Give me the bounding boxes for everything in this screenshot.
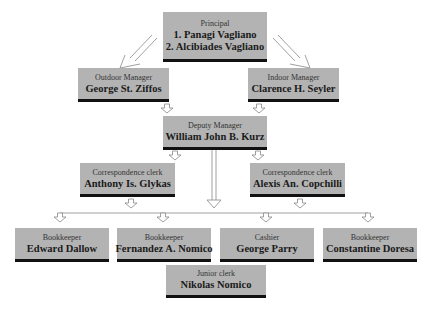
arrow-principal-to-indoor: [273, 35, 310, 68]
arrow-to-book2: [157, 213, 169, 222]
role-label: Bookkeeper: [351, 233, 390, 243]
role-label: Principal: [201, 19, 230, 29]
person-name: Edward Dallow: [27, 243, 97, 255]
node-deputy-manager: Deputy Manager William John B. Kurz: [163, 116, 267, 150]
node-correspondence-clerk-1: Correspondence clerk Anthony Is. Glykas: [80, 163, 175, 197]
node-junior-clerk: Junior clerk Nikolas Nomico: [166, 265, 266, 298]
node-indoor-manager: Indoor Manager Clarence H. Seyler: [248, 68, 339, 102]
role-label: Correspondence clerk: [263, 168, 333, 178]
role-label: Indoor Manager: [268, 73, 320, 83]
arrow-outdoor-to-deputy: [161, 104, 173, 113]
role-label: Correspondence clerk: [93, 168, 163, 178]
role-label: Bookkeeper: [145, 233, 184, 243]
node-bookkeeper-1: Bookkeeper Edward Dallow: [15, 228, 109, 262]
role-label: Deputy Manager: [188, 121, 242, 131]
role-label: Outdoor Manager: [95, 73, 152, 83]
node-bookkeeper-3: Bookkeeper Constantine Doresa: [323, 228, 417, 262]
arrow-to-cashier: [260, 213, 272, 222]
person-name: 2. Alcibiades Vagliano: [166, 41, 264, 53]
arrow-deputy-to-bottom: [207, 150, 221, 208]
person-name: Clarence H. Seyler: [251, 83, 335, 95]
person-name: 1. Panagi Vagliano: [173, 29, 256, 41]
arrow-indoor-to-deputy: [253, 104, 265, 113]
person-name: Nikolas Nomico: [181, 279, 252, 291]
node-outdoor-manager: Outdoor Manager George St. Ziffos: [78, 68, 169, 102]
role-label: Bookkeeper: [43, 233, 82, 243]
arrow-principal-to-outdoor: [120, 35, 157, 68]
arrow-corr1-down: [125, 199, 137, 208]
person-name: Fernandez A. Nomico: [115, 243, 212, 255]
role-label: Cashier: [255, 233, 279, 243]
person-name: George St. Ziffos: [85, 83, 161, 95]
arrow-deputy-to-corr2: [252, 151, 264, 160]
person-name: George Parry: [236, 243, 298, 255]
person-name: William John B. Kurz: [166, 131, 265, 143]
role-label: Junior clerk: [197, 269, 235, 279]
arrow-to-book3: [362, 213, 374, 222]
arrow-corr2-down: [294, 199, 306, 208]
node-cashier: Cashier George Parry: [220, 228, 314, 262]
node-correspondence-clerk-2: Correspondence clerk Alexis An. Copchill…: [250, 163, 345, 197]
arrow-to-book1: [54, 213, 66, 222]
person-name: Anthony Is. Glykas: [84, 178, 171, 190]
node-principal: Principal 1. Panagi Vagliano 2. Alcibiad…: [163, 12, 267, 62]
person-name: Constantine Doresa: [326, 243, 414, 255]
person-name: Alexis An. Copchilli: [253, 178, 342, 190]
arrow-deputy-to-corr1: [169, 151, 181, 160]
node-bookkeeper-2: Bookkeeper Fernandez A. Nomico: [117, 228, 211, 262]
